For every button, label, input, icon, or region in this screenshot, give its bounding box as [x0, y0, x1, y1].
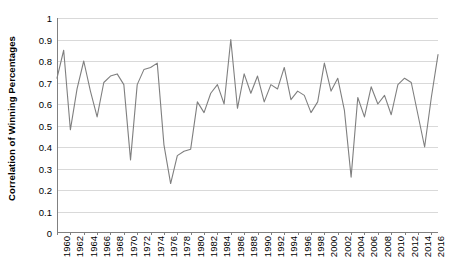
x-axis-tick-mark [311, 232, 312, 235]
x-axis-tick-label: 1986 [235, 236, 246, 257]
x-axis-tick-label: 1974 [155, 236, 166, 257]
x-axis-tick-mark [258, 232, 259, 235]
y-axis-tick-label: 0.8 [39, 56, 52, 67]
x-axis-tick-mark [271, 232, 272, 235]
y-axis-tick-label: 0.3 [39, 163, 52, 174]
x-axis-tick-label: 1964 [88, 236, 99, 257]
plot-area [57, 18, 438, 233]
x-axis-tick-label: 1990 [262, 236, 273, 257]
x-axis-tick-mark [244, 232, 245, 235]
x-axis-tick-label: 1994 [288, 236, 299, 257]
x-axis-tick-mark [391, 232, 392, 235]
x-axis-tick-label: 1984 [221, 236, 232, 257]
y-axis-tick-label: 0.2 [39, 185, 52, 196]
x-axis-tick-label: 2014 [422, 236, 433, 257]
y-axis-tick-label: 0.7 [39, 77, 52, 88]
x-axis-tick-label: 2010 [395, 236, 406, 257]
x-axis-tick-mark [338, 232, 339, 235]
y-axis-tick-labels: 00.10.20.30.40.50.60.70.80.91 [22, 12, 55, 240]
x-axis-tick-mark [151, 232, 152, 235]
x-axis-tick-mark [204, 232, 205, 235]
correlation-line-chart: Correlation of Winning Percentages 00.10… [0, 0, 458, 277]
x-axis-tick-label: 1962 [74, 236, 85, 257]
x-axis-tick-label: 1966 [101, 236, 112, 257]
x-axis-tick-label: 1988 [248, 236, 259, 257]
x-axis-tick-mark [284, 232, 285, 235]
x-axis-tick-mark [177, 232, 178, 235]
x-axis-tick-label: 1968 [114, 236, 125, 257]
y-axis-tick-label: 0 [47, 228, 52, 239]
x-axis-tick-label: 1980 [195, 236, 206, 257]
x-axis-tick-label: 1972 [141, 236, 152, 257]
x-axis-tick-mark [191, 232, 192, 235]
x-axis-tick-label: 2012 [409, 236, 420, 257]
y-axis-title: Correlation of Winning Percentages [0, 0, 22, 236]
x-axis-tick-label: 2016 [435, 236, 446, 257]
x-axis-tick-label: 1970 [128, 236, 139, 257]
x-axis-tick-mark [70, 232, 71, 235]
x-axis-tick-label: 1978 [181, 236, 192, 257]
x-axis-tick-label: 2008 [382, 236, 393, 257]
x-axis-tick-label: 1996 [302, 236, 313, 257]
x-axis-tick-mark [431, 232, 432, 235]
x-axis-tick-label: 1992 [275, 236, 286, 257]
x-axis-tick-mark [124, 232, 125, 235]
x-axis-tick-mark [324, 232, 325, 235]
x-axis-tick-label: 2006 [368, 236, 379, 257]
x-axis-tick-mark [97, 232, 98, 235]
data-series-path [57, 40, 438, 184]
x-axis-tick-label: 1976 [168, 236, 179, 257]
x-axis-tick-mark [405, 232, 406, 235]
y-axis-tick-label: 1 [47, 13, 52, 24]
x-axis-tick-mark [110, 232, 111, 235]
x-axis-tick-label: 1960 [61, 236, 72, 257]
y-axis-tick-label: 0.9 [39, 34, 52, 45]
x-axis-tick-mark [298, 232, 299, 235]
x-axis-tick-mark [364, 232, 365, 235]
y-axis-tick-label: 0.6 [39, 99, 52, 110]
x-axis-tick-mark [84, 232, 85, 235]
series-line [57, 18, 438, 233]
x-axis-tick-label: 2004 [355, 236, 366, 257]
x-axis-tick-mark [231, 232, 232, 235]
y-axis-tick-label: 0.1 [39, 206, 52, 217]
x-axis-tick-label: 2000 [328, 236, 339, 257]
x-axis-tick-mark [378, 232, 379, 235]
y-axis-title-text: Correlation of Winning Percentages [6, 36, 17, 201]
x-axis-tick-mark [57, 232, 58, 235]
x-axis-tick-mark [164, 232, 165, 235]
x-axis-tick-mark [137, 232, 138, 235]
x-axis-tick-label: 1982 [208, 236, 219, 257]
x-axis-tick-mark [418, 232, 419, 235]
x-axis-tick-mark [217, 232, 218, 235]
x-axis-tick-labels: 1960196219641966196819701972197419761978… [57, 234, 438, 277]
x-axis-tick-label: 1998 [315, 236, 326, 257]
y-axis-tick-label: 0.5 [39, 120, 52, 131]
y-axis-tick-label: 0.4 [39, 142, 52, 153]
x-axis-tick-label: 2002 [342, 236, 353, 257]
x-axis-tick-mark [351, 232, 352, 235]
